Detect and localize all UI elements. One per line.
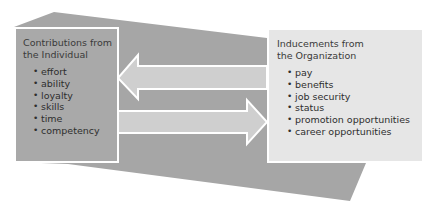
inducements-title-line2: the Organization [277,50,356,61]
list-item: job security [295,91,422,103]
list-item: time [41,113,117,125]
inducements-list: pay benefits job security status promoti… [277,67,422,138]
list-item: effort [41,66,117,78]
inducements-title: Inducements from the Organization [277,38,422,62]
list-item: promotion opportunities [295,114,422,126]
contributions-list: effort ability loyalty skills time compe… [23,66,117,137]
inducements-title-line1: Inducements from [277,38,364,49]
list-item: ability [41,78,117,90]
list-item: status [295,102,422,114]
list-item: benefits [295,79,422,91]
contributions-title-line1: Contributions from [23,37,112,48]
list-item: competency [41,125,117,137]
list-item: skills [41,101,117,113]
list-item: loyalty [41,90,117,102]
list-item: career opportunities [295,126,422,138]
contributions-box: Contributions from the Individual effort… [14,27,119,163]
contributions-title-line2: the Individual [23,49,88,60]
list-item: pay [295,67,422,79]
contributions-title: Contributions from the Individual [23,37,117,61]
inducements-box: Inducements from the Organization pay be… [267,28,424,163]
